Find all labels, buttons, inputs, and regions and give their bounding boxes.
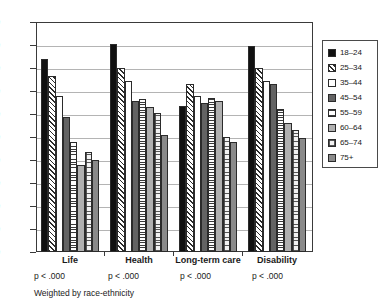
legend-item[interactable]: 25–34	[328, 60, 377, 75]
bar	[208, 98, 215, 252]
bar	[41, 59, 48, 252]
bar	[230, 142, 237, 252]
bar	[270, 84, 277, 252]
legend-swatch-icon	[328, 109, 336, 117]
bar	[63, 117, 70, 252]
legend-item-label: 25–34	[340, 64, 362, 72]
bar	[186, 84, 193, 252]
bar-group	[179, 22, 237, 252]
legend-swatch-icon	[328, 64, 336, 72]
bar	[179, 106, 186, 252]
bar-group	[110, 22, 168, 252]
x-axis-labels: LifeHealthLong-term careDisability	[0, 255, 384, 271]
p-value-label: p < .000	[180, 271, 211, 281]
bar-group	[41, 22, 99, 252]
bar	[117, 68, 124, 252]
legend-item[interactable]: 18–24	[328, 45, 377, 60]
bar	[263, 81, 270, 252]
legend-item[interactable]: 60–64	[328, 120, 377, 135]
bar	[70, 142, 77, 252]
legend-item[interactable]: 75+	[328, 150, 377, 165]
bar	[223, 137, 230, 252]
bar	[125, 81, 132, 252]
bar	[248, 46, 255, 252]
p-value-label: p < .000	[34, 271, 65, 281]
bar	[277, 109, 284, 252]
bar	[194, 96, 201, 252]
y-axis-tick-mark	[30, 252, 36, 253]
y-axis: 1009080706050403020100	[0, 0, 36, 274]
p-value-label: p < .000	[252, 271, 283, 281]
bar-chart-figure: 1009080706050403020100 LifeHealthLong-te…	[0, 0, 384, 306]
legend-item-label: 65–74	[340, 139, 362, 147]
x-axis-tick-mark	[104, 252, 105, 256]
bar-series-container	[36, 22, 313, 252]
bar	[110, 44, 117, 252]
bar	[146, 107, 153, 252]
legend-item[interactable]: 45–54	[328, 90, 377, 105]
legend-swatch-icon	[328, 124, 336, 132]
legend-item-label: 75+	[340, 154, 353, 162]
legend-swatch-icon	[328, 94, 336, 102]
bar	[201, 103, 208, 253]
bar	[92, 160, 99, 252]
bar	[85, 152, 92, 252]
bar	[284, 123, 291, 252]
p-value-annotations: p < .000p < .000p < .000p < .000	[0, 271, 384, 285]
legend-item-label: 18–24	[340, 49, 362, 57]
legend-swatch-icon	[328, 139, 336, 147]
legend-item-label: 60–64	[340, 124, 362, 132]
x-axis-tick-mark	[242, 252, 243, 256]
bar	[77, 165, 84, 252]
x-axis-tick-mark	[173, 252, 174, 256]
legend-item[interactable]: 35–44	[328, 75, 377, 90]
bar	[56, 96, 63, 252]
chart-footnote: Weighted by race-ethnicity	[34, 288, 134, 298]
bar	[299, 138, 306, 252]
bar	[292, 130, 299, 252]
bar	[215, 101, 222, 252]
legend-item-label: 45–54	[340, 94, 362, 102]
bar-group	[248, 22, 306, 252]
chart-legend: 18–2425–3435–4445–5455–5960–6465–7475+	[322, 40, 378, 168]
bar	[255, 68, 262, 252]
legend-item[interactable]: 55–59	[328, 105, 377, 120]
p-value-label: p < .000	[108, 271, 139, 281]
legend-swatch-icon	[328, 49, 336, 57]
legend-item[interactable]: 65–74	[328, 135, 377, 150]
bar	[154, 113, 161, 252]
legend-swatch-icon	[328, 79, 336, 87]
legend-swatch-icon	[328, 154, 336, 162]
bar	[48, 76, 55, 252]
bar	[139, 99, 146, 252]
bar	[132, 101, 139, 252]
bar	[161, 135, 168, 252]
legend-item-label: 55–59	[340, 109, 362, 117]
x-axis-category-label: Disability	[227, 255, 327, 266]
legend-item-label: 35–44	[340, 79, 362, 87]
